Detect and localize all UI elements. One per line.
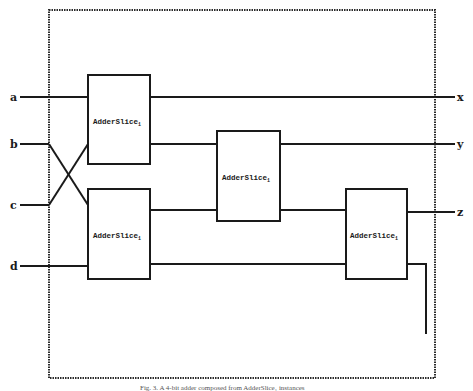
adder-slice-top-left: AdderSlice1	[88, 75, 150, 164]
wire-carry-out	[407, 264, 426, 334]
input-label-b: b	[10, 138, 18, 151]
adder-circuit-diagram: AdderSlice1 AdderSlice1 AdderSlice1 Adde…	[0, 0, 473, 391]
input-label-c: c	[10, 199, 17, 212]
adder-slice-middle: AdderSlice1	[217, 131, 280, 221]
adder-slice-right: AdderSlice1	[346, 189, 407, 279]
output-label-y: y	[456, 138, 464, 151]
input-label-d: d	[10, 260, 18, 273]
figure-caption: Fig. 3. A 4-bit adder composed from Adde…	[140, 384, 305, 391]
adder-slice-bottom-left: AdderSlice1	[88, 189, 150, 279]
input-label-a: a	[10, 91, 17, 104]
output-label-z: z	[457, 206, 463, 219]
output-label-x: x	[457, 91, 464, 104]
